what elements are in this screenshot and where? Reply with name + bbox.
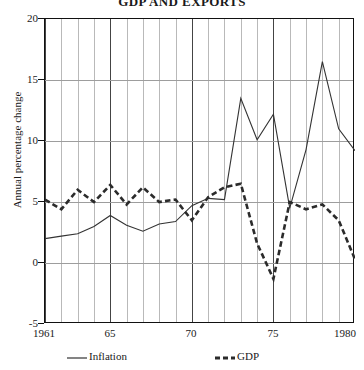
chart-legend: Inflation GDP <box>44 347 354 363</box>
legend-entry-gdp: GDP <box>214 347 259 363</box>
legend-swatch-dashed-icon <box>214 351 236 361</box>
y-tick-0: 0 <box>0 256 38 268</box>
series-line-inflation <box>45 62 355 239</box>
legend-swatch-solid-icon <box>66 351 88 361</box>
y-tick-5: 5 <box>0 195 38 207</box>
x-tick-70: 70 <box>173 327 209 339</box>
legend-label-inflation: Inflation <box>89 348 127 364</box>
y-tickmark-minus5 <box>38 323 44 324</box>
y-tick-15: 15 <box>0 73 38 85</box>
series-line-gdp <box>45 184 355 279</box>
x-tick-65: 65 <box>92 327 128 339</box>
plot-area <box>44 18 354 323</box>
chart-figure: GDP AND EXPORTS Annual percentage change… <box>0 0 364 370</box>
legend-label-gdp: GDP <box>237 348 259 364</box>
x-tick-75: 75 <box>255 327 291 339</box>
x-tick-1980: 1980 <box>327 327 363 339</box>
chart-title: GDP AND EXPORTS <box>0 0 364 8</box>
y-tick-20: 20 <box>0 12 38 24</box>
x-tick-1961: 1961 <box>26 327 62 339</box>
y-tick-10: 10 <box>0 134 38 146</box>
legend-entry-inflation: Inflation <box>66 347 127 363</box>
data-lines <box>45 19 355 324</box>
